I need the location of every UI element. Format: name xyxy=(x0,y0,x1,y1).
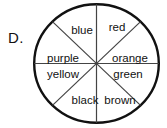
spinner-sector-label-purple: purple xyxy=(47,52,79,64)
spinner-svg: redorangegreenbrownblackyellowpurpleblue xyxy=(0,0,167,128)
spinner-sector-label-green: green xyxy=(113,68,142,80)
spinner-diagram: redorangegreenbrownblackyellowpurpleblue xyxy=(0,0,167,128)
spinner-sector-label-blue: blue xyxy=(71,24,93,36)
spinner-sector-label-black: black xyxy=(72,94,99,106)
spinner-sector-label-brown: brown xyxy=(104,94,135,106)
spinner-sector-label-red: red xyxy=(109,21,126,33)
spinner-figure: D. redorangegreenbrownblackyellowpurpleb… xyxy=(0,0,167,128)
spinner-sector-label-yellow: yellow xyxy=(47,68,80,80)
spinner-sector-label-orange: orange xyxy=(112,52,148,64)
